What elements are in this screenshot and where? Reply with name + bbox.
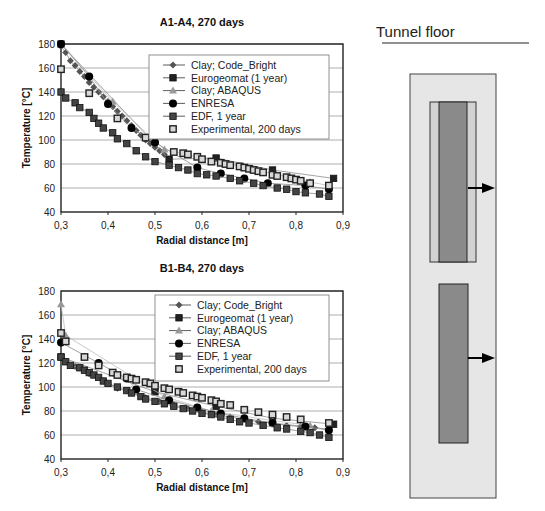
- data-point: [152, 383, 158, 389]
- data-point: [58, 330, 64, 336]
- legend-label: Clay; ABAQUS: [191, 84, 261, 96]
- data-point: [166, 162, 172, 168]
- data-point: [199, 156, 205, 162]
- data-point: [316, 432, 322, 438]
- data-point: [58, 66, 64, 72]
- legend-label: EDF, 1 year: [197, 350, 252, 362]
- data-point: [260, 422, 266, 428]
- data-point: [114, 384, 120, 390]
- data-point: [152, 398, 158, 404]
- y-tick-label: 180: [38, 39, 55, 50]
- y-tick-label: 80: [44, 406, 56, 417]
- data-point: [171, 149, 177, 155]
- y-axis-label: Temperature [°C]: [21, 335, 32, 416]
- chart-title: B1-B4, 270 days: [160, 262, 244, 274]
- data-point: [218, 401, 224, 407]
- legend-label: EDF, 1 year: [191, 110, 246, 122]
- data-point: [326, 182, 332, 188]
- y-tick-label: 100: [38, 135, 55, 146]
- data-point: [316, 191, 322, 197]
- data-point: [269, 411, 275, 417]
- data-point: [199, 410, 205, 416]
- x-tick-label: 0,5: [148, 220, 162, 231]
- y-tick-label: 40: [44, 207, 56, 218]
- data-point: [57, 40, 65, 48]
- legend-marker: [176, 366, 182, 372]
- data-point: [85, 72, 93, 80]
- x-tick-label: 0,9: [336, 467, 350, 478]
- data-point: [325, 426, 333, 434]
- data-point: [142, 134, 148, 140]
- y-tick-label: 100: [38, 382, 55, 393]
- heater-canister-lower: [439, 284, 468, 443]
- legend: Clay; Code_BrightEurogeomat (1 year)Clay…: [149, 55, 329, 139]
- data-point: [283, 414, 289, 420]
- y-tick-label: 80: [44, 159, 56, 170]
- data-point: [133, 148, 139, 154]
- data-point: [114, 115, 120, 121]
- y-tick-label: 120: [38, 358, 55, 369]
- legend-marker: [170, 75, 176, 81]
- data-point: [81, 354, 87, 360]
- data-point: [227, 175, 233, 181]
- data-point: [255, 409, 261, 415]
- data-point: [185, 151, 191, 157]
- data-point: [298, 428, 304, 434]
- x-axis-label: Radial distance [m]: [156, 235, 248, 246]
- data-point: [326, 193, 332, 199]
- data-point: [274, 185, 280, 191]
- chart-b1-b4: B1-B4, 270 days Radial distance [m] Temp…: [21, 262, 350, 493]
- data-point: [151, 138, 159, 146]
- data-point: [298, 178, 304, 184]
- data-point: [77, 104, 83, 110]
- x-tick-label: 0,6: [195, 467, 209, 478]
- data-point: [208, 158, 214, 164]
- data-point: [307, 429, 313, 435]
- data-point: [67, 362, 73, 368]
- heater-canister-upper: [439, 102, 467, 262]
- data-point: [330, 175, 336, 181]
- legend: Clay; Code_BrightEurogeomat (1 year)Clay…: [155, 295, 329, 381]
- x-tick-label: 0,6: [195, 220, 209, 231]
- data-point: [208, 411, 214, 417]
- data-point: [114, 372, 120, 378]
- legend-marker: [169, 99, 177, 107]
- legend-label: Experimental, 200 days: [191, 123, 301, 135]
- data-point: [274, 173, 280, 179]
- legend-label: ENRESA: [197, 337, 240, 349]
- legend-label: Eurogeomat (1 year): [191, 72, 287, 84]
- data-point: [260, 169, 266, 175]
- data-point: [251, 180, 257, 186]
- data-point: [110, 130, 116, 136]
- legend-marker: [176, 315, 182, 321]
- x-tick-label: 0,5: [148, 467, 162, 478]
- legend-label: Clay; ABAQUS: [197, 324, 267, 336]
- data-point: [57, 300, 65, 307]
- x-tick-label: 0,7: [242, 467, 256, 478]
- y-tick-label: 60: [44, 183, 56, 194]
- data-point: [133, 377, 139, 383]
- x-tick-label: 0,8: [289, 467, 303, 478]
- data-point: [260, 182, 266, 188]
- data-point: [227, 402, 233, 408]
- data-point: [298, 416, 304, 422]
- legend-label: Clay; Code_Bright: [191, 59, 276, 71]
- data-point: [302, 190, 308, 196]
- x-axis-label: Radial distance [m]: [156, 482, 248, 493]
- chart-title: A1-A4, 270 days: [160, 16, 244, 28]
- data-point: [218, 414, 224, 420]
- x-tick-label: 0,7: [242, 220, 256, 231]
- legend-marker: [170, 113, 176, 119]
- data-point: [194, 170, 200, 176]
- legend-marker: [176, 353, 182, 359]
- x-tick-label: 0,3: [54, 467, 68, 478]
- data-point: [185, 167, 191, 173]
- data-point: [100, 125, 106, 131]
- legend-label: ENRESA: [191, 97, 234, 109]
- data-point: [63, 95, 69, 101]
- data-point: [58, 89, 64, 95]
- data-point: [307, 180, 313, 186]
- tunnel-floor-label: Tunnel floor: [376, 23, 455, 40]
- data-point: [175, 164, 181, 170]
- data-point: [236, 419, 242, 425]
